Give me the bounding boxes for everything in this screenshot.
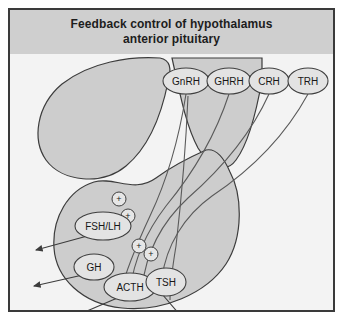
stimulation-marker-1-symbol: +	[116, 194, 121, 204]
hormone-oval-fsh-lh[interactable]: FSH/LH	[75, 212, 131, 240]
hormone-oval-crh[interactable]: CRH	[249, 68, 289, 94]
hormone-oval-tsh-label: TSH	[156, 277, 176, 288]
hormone-oval-crh-label: CRH	[258, 76, 280, 87]
stimulation-marker-1: +	[112, 192, 126, 206]
hypothalamus-region	[38, 58, 170, 179]
figure-frame: Feedback control of hypothalamus anterio…	[8, 8, 335, 312]
hormone-oval-fsh-lh-label: FSH/LH	[85, 221, 121, 232]
page-title-line-2: anterior pituitary	[123, 32, 220, 47]
hormone-oval-tsh[interactable]: TSH	[146, 268, 186, 296]
stimulation-marker-3: +	[132, 239, 146, 253]
hormone-oval-acth-label: ACTH	[116, 282, 143, 293]
hormone-oval-gnrh[interactable]: GnRH	[163, 68, 209, 94]
stimulation-marker-3-symbol: +	[136, 241, 141, 251]
hormone-oval-ghrh-label: GHRH	[214, 76, 243, 87]
stimulation-marker-4: +	[144, 247, 158, 261]
stimulation-marker-4-symbol: +	[148, 249, 153, 259]
figure-title-bar: Feedback control of hypothalamus anterio…	[10, 10, 333, 54]
hormone-oval-trh[interactable]: TRH	[288, 68, 328, 94]
hormone-oval-gnrh-label: GnRH	[172, 76, 200, 87]
figure-root: Feedback control of hypothalamus anterio…	[0, 0, 345, 330]
diagram-canvas: GnRH GHRH CRH TRH +	[10, 54, 333, 310]
hormone-oval-ghrh[interactable]: GHRH	[207, 68, 251, 94]
hormone-oval-trh-label: TRH	[298, 76, 319, 87]
page-title-line-1: Feedback control of hypothalamus	[71, 17, 273, 32]
hormone-oval-gh[interactable]: GH	[74, 254, 114, 280]
hormone-oval-gh-label: GH	[87, 262, 102, 273]
